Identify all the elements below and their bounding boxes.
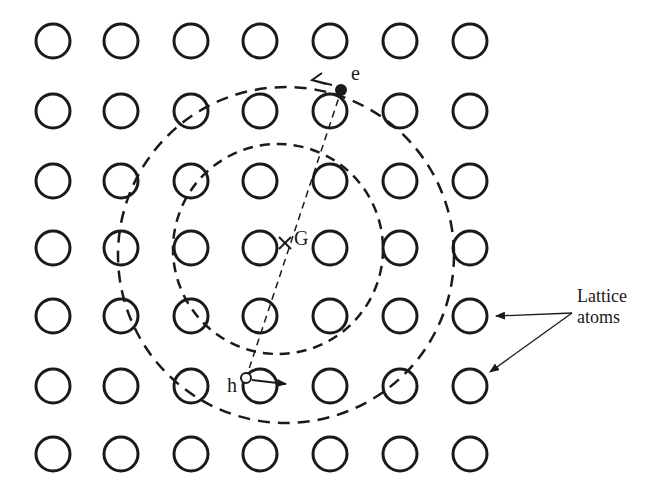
lattice-atom <box>174 94 208 128</box>
lattice-atom <box>453 24 487 58</box>
lattice-atoms <box>36 24 487 471</box>
diagram-canvas <box>0 0 662 500</box>
lattice-atom <box>313 369 347 403</box>
lattice-atom <box>313 24 347 58</box>
callout-arrow-upper <box>496 313 572 316</box>
callout-arrow-lower <box>490 313 572 372</box>
lattice-atom <box>243 24 277 58</box>
lattice-atom <box>36 164 70 198</box>
electron-dot <box>335 84 347 96</box>
lattice-atom <box>104 164 138 198</box>
lattice-atom <box>174 369 208 403</box>
lattice-label-line2: atoms <box>577 307 620 328</box>
hole-dot <box>241 373 251 383</box>
lattice-atom <box>383 24 417 58</box>
lattice-atom <box>36 299 70 333</box>
electron-direction-arrow-icon <box>312 73 332 85</box>
lattice-atom <box>243 94 277 128</box>
lattice-atom <box>383 164 417 198</box>
lattice-atom <box>243 231 277 265</box>
lattice-atom <box>453 437 487 471</box>
lattice-atom <box>104 24 138 58</box>
lattice-atom <box>383 437 417 471</box>
lattice-atom <box>104 369 138 403</box>
lattice-atom <box>383 231 417 265</box>
lattice-atom <box>174 164 208 198</box>
lattice-atom <box>104 231 138 265</box>
lattice-atom <box>36 437 70 471</box>
lattice-atom <box>243 164 277 198</box>
lattice-label-line1: Lattice <box>577 286 627 307</box>
lattice-atom <box>453 94 487 128</box>
lattice-atom <box>174 231 208 265</box>
lattice-atom <box>453 231 487 265</box>
electron-orbit <box>118 87 454 423</box>
lattice-atom <box>174 437 208 471</box>
hole-label: h <box>227 374 237 397</box>
lattice-atom <box>453 369 487 403</box>
exciton-lattice-diagram: e h G Lattice atoms <box>0 0 662 500</box>
lattice-atom <box>104 299 138 333</box>
center-of-mass-cross-icon <box>279 237 291 249</box>
lattice-atom <box>36 231 70 265</box>
hole-direction-arrow-icon <box>252 380 286 384</box>
lattice-atom <box>383 299 417 333</box>
lattice-atom <box>104 437 138 471</box>
lattice-atom <box>313 164 347 198</box>
lattice-atom <box>243 437 277 471</box>
electron-label: e <box>351 62 360 85</box>
lattice-atom <box>174 24 208 58</box>
lattice-atom <box>104 94 138 128</box>
center-of-mass-label: G <box>294 227 308 250</box>
lattice-atom <box>313 437 347 471</box>
lattice-atom <box>313 231 347 265</box>
lattice-atom <box>383 369 417 403</box>
lattice-atom <box>453 299 487 333</box>
lattice-atom <box>313 299 347 333</box>
lattice-atom <box>174 299 208 333</box>
lattice-atom <box>36 24 70 58</box>
lattice-atom <box>453 164 487 198</box>
lattice-atom <box>36 94 70 128</box>
lattice-atom <box>36 369 70 403</box>
lattice-atom <box>243 299 277 333</box>
